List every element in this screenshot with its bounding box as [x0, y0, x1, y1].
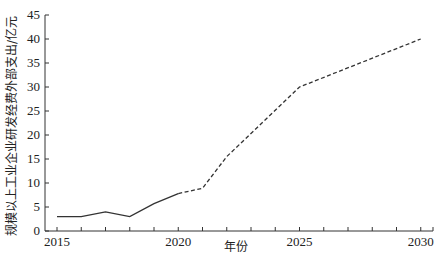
x-tick-label: 2015	[44, 234, 70, 249]
y-axis-title: 规模以上工业企业研发经费外部支出/亿元	[4, 16, 19, 236]
y-tick-label: 30	[27, 79, 40, 94]
line-chart: 051015202530354045 2015202020252030 年份 规…	[0, 0, 438, 266]
x-tick-label: 2020	[165, 234, 191, 249]
x-tick-label: 2025	[287, 234, 313, 249]
x-axis-title: 年份	[224, 240, 248, 254]
y-tick-label: 15	[27, 151, 40, 166]
y-tick-label: 35	[27, 55, 40, 70]
figure-caption	[0, 259, 438, 266]
x-tick-label: 2030	[408, 234, 434, 249]
y-tick-label: 10	[27, 175, 40, 190]
y-tick-label: 0	[34, 223, 41, 238]
actual-line	[57, 194, 178, 217]
y-tick-label: 5	[34, 199, 41, 214]
y-tick-label: 45	[27, 7, 40, 22]
plot-lines	[57, 39, 421, 217]
y-tick-label: 40	[27, 31, 40, 46]
y-tick-label: 20	[27, 127, 40, 142]
forecast-line	[178, 39, 421, 194]
y-tick-label: 25	[27, 103, 40, 118]
y-axis: 051015202530354045	[27, 7, 49, 238]
